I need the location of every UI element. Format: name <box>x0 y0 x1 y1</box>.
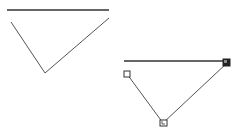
v-polyline[interactable] <box>127 63 227 123</box>
unselected-shape[interactable] <box>7 10 109 73</box>
drawing-canvas[interactable] <box>0 0 243 135</box>
selected-shape[interactable] <box>124 59 230 126</box>
v-polyline[interactable] <box>11 18 109 73</box>
vertex-handle[interactable] <box>160 120 167 126</box>
start-handle[interactable] <box>124 71 130 77</box>
end-handle[interactable] <box>223 59 230 66</box>
